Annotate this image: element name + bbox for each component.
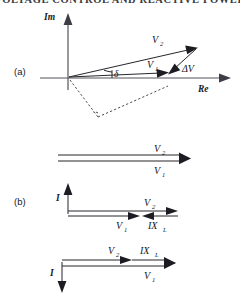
panel-b-lower-vector-ixl-subscript: L xyxy=(154,251,159,258)
panel-a-re-axis xyxy=(40,74,231,83)
panel-a-vector-v2-label: V xyxy=(152,34,160,45)
panel-a-vector-v1-subscript: 1 xyxy=(155,65,158,72)
panel-b-upper-vector-v2-label: V xyxy=(144,197,152,208)
panel-b-upper-vector-v1 xyxy=(68,212,140,220)
panel-a-tag: (a) xyxy=(14,66,26,77)
panel-b-upper-vector-v1-label: V xyxy=(116,220,124,231)
panel-b-upper-vector-ixl-subscript: L xyxy=(162,226,167,233)
panel-b-upper-vector-ixl-label: IX xyxy=(147,220,158,231)
panel-b-lower-vector-v1 xyxy=(62,260,176,269)
panel-a-vector-v2 xyxy=(69,46,198,77)
parallel-pair-vector-v1 xyxy=(58,156,191,165)
panel-b-upper-vector-ixl xyxy=(142,212,178,220)
panel-a-angle-delta xyxy=(104,70,112,78)
parallel-pair-vector-v1-subscript: 1 xyxy=(162,171,165,178)
panel-b-lower-vector-v2-label: V xyxy=(108,245,116,256)
phasor-figure: (a) Im Re V 2 xyxy=(0,0,240,299)
panel-b-upper-vector-v1-subscript: 1 xyxy=(124,226,127,233)
panel-a-vector-v2-subscript: 2 xyxy=(160,40,164,47)
panel-b-lower-vector-v2 xyxy=(62,256,132,264)
panel-b-lower-current-axis xyxy=(58,262,67,293)
panel-a-im-axis-label: Im xyxy=(43,12,55,22)
panel-a-re-axis-label: Re xyxy=(197,84,209,94)
parallel-pair-vector-v2-label: V xyxy=(154,143,162,154)
parallel-pair-vector-v1-label: V xyxy=(154,165,162,176)
panel-b-lower-vector-v2-subscript: 2 xyxy=(116,251,120,258)
panel-a-angle-delta-label: δ xyxy=(114,69,119,79)
panel-b-upper-current-axis-label: I xyxy=(55,193,60,203)
panel-b-lower-vector-v1-subscript: 1 xyxy=(152,276,155,283)
panel-b-lower-vector-ixl-label: IX xyxy=(139,245,150,256)
panel-b-upper: (b) I V 2 V 1 xyxy=(14,183,178,233)
panel-b-upper-current-axis xyxy=(64,183,73,214)
parallel-pair-vector-v2 xyxy=(58,153,191,162)
panel-b-tag: (b) xyxy=(14,196,26,207)
panel-b-lower-current-axis-label: I xyxy=(49,268,54,278)
panel-parallel-pair: V 2 V 1 xyxy=(58,143,191,178)
panel-b-lower: V 2 IX L V 1 I xyxy=(49,245,176,293)
panel-a: (a) Im Re V 2 xyxy=(14,12,231,117)
panel-b-lower-vector-v1-label: V xyxy=(144,270,152,281)
figure-root: VOLTAGE CONTROL AND REACTIVE POWER (a) I… xyxy=(0,0,240,299)
panel-a-dashed-construction xyxy=(70,80,168,117)
panel-b-upper-vector-v2-subscript: 2 xyxy=(152,203,156,210)
panel-a-vector-v1-label: V xyxy=(147,59,155,70)
panel-a-vector-delta-v-label: ΔV xyxy=(181,63,196,74)
panel-b-upper-vector-v2 xyxy=(68,207,178,215)
